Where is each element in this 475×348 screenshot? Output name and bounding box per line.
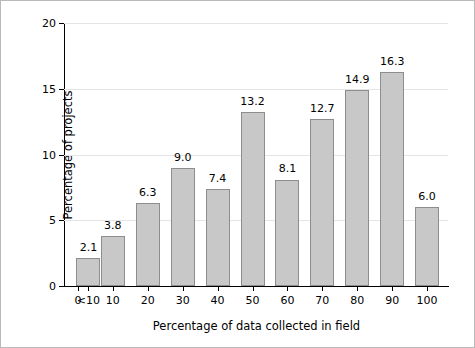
x-tick-mark — [113, 286, 114, 291]
y-tick-mark — [59, 23, 64, 24]
y-tick-label: 10 — [42, 148, 56, 161]
bar — [415, 207, 439, 286]
y-tick-mark — [59, 155, 64, 156]
y-tick-mark — [59, 220, 64, 221]
x-tick-label: 10 — [106, 294, 120, 307]
y-tick-label: 0 — [49, 280, 56, 293]
bar — [275, 180, 299, 287]
x-tick-label: 60 — [280, 294, 294, 307]
bar-value-label: 3.8 — [104, 219, 122, 232]
bar-value-label: 12.7 — [310, 102, 335, 115]
x-tick-label: 40 — [211, 294, 225, 307]
bar — [76, 258, 100, 286]
x-tick-label: 70 — [315, 294, 329, 307]
x-tick-mark — [78, 286, 79, 291]
x-tick-mark — [148, 286, 149, 291]
bar-value-label: 13.2 — [240, 95, 265, 108]
bar-value-label: 6.3 — [139, 186, 157, 199]
y-tick-label: 5 — [49, 214, 56, 227]
y-tick-mark — [59, 89, 64, 90]
x-tick-mark — [357, 286, 358, 291]
x-tick-mark — [427, 286, 428, 291]
x-tick-label: 80 — [350, 294, 364, 307]
plot-area: 051015200<101020304050607080901002.13.86… — [64, 23, 448, 286]
x-tick-label: 90 — [385, 294, 399, 307]
bar — [310, 119, 334, 286]
bar-value-label: 9.0 — [174, 151, 192, 164]
y-tick-label: 15 — [42, 82, 56, 95]
x-tick-label: 50 — [246, 294, 260, 307]
x-tick-mark — [392, 286, 393, 291]
bar — [241, 112, 265, 286]
bar — [345, 90, 369, 286]
gridline — [64, 23, 448, 24]
x-tick-mark — [253, 286, 254, 291]
x-tick-label: 100 — [417, 294, 438, 307]
bar — [101, 236, 125, 286]
bar-value-label: 8.1 — [279, 162, 297, 175]
bar — [206, 189, 230, 286]
y-tick-label: 20 — [42, 17, 56, 30]
x-axis-title: Percentage of data collected in field — [64, 319, 449, 333]
bar-value-label: 7.4 — [209, 172, 227, 185]
bar-value-label: 6.0 — [418, 190, 436, 203]
bar-value-label: 16.3 — [380, 55, 405, 68]
x-tick-mark — [218, 286, 219, 291]
bar-value-label: 2.1 — [80, 241, 98, 254]
x-tick-label: <10 — [77, 294, 100, 307]
x-tick-mark — [183, 286, 184, 291]
x-tick-label: 30 — [176, 294, 190, 307]
bar-value-label: 14.9 — [345, 73, 370, 86]
bar — [171, 168, 195, 286]
y-axis-title-holder: Percentage of projects — [1, 23, 23, 287]
bar — [380, 72, 404, 286]
x-tick-mark — [287, 286, 288, 291]
bar — [136, 203, 160, 286]
bar-chart: Percentage of projects 051015200<1010203… — [0, 0, 475, 348]
y-tick-mark — [59, 286, 64, 287]
x-tick-mark — [322, 286, 323, 291]
x-tick-mark — [88, 286, 89, 291]
x-tick-label: 20 — [141, 294, 155, 307]
